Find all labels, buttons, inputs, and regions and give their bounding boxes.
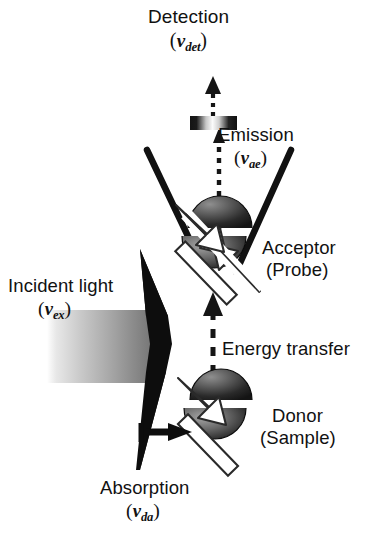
donor-label-line2: (Sample) — [260, 428, 336, 449]
incident-light-label-line2: (νex) — [38, 298, 113, 322]
absorption-label-line2: (νda) — [126, 500, 189, 524]
detection-ray — [205, 76, 221, 116]
donor-label-line1: Donor — [272, 406, 336, 427]
absorption-label: Absorption (νda) — [100, 478, 189, 523]
incident-light-label: Incident light (νex) — [8, 276, 113, 321]
emission-label-line2: (νae) — [234, 147, 294, 171]
acceptor-label: Acceptor (Probe) — [262, 238, 336, 280]
emission-label-line1: Emission — [218, 125, 294, 146]
detection-label: Detection (νdet) — [0, 6, 377, 54]
acceptor-label-line1: Acceptor — [262, 238, 336, 259]
emission-label: Emission (νae) — [218, 125, 294, 170]
donor-label: Donor (Sample) — [272, 406, 336, 448]
figure-canvas: Detection (νdet) Emission (νae) Incident… — [0, 0, 377, 536]
detection-label-line1: Detection — [0, 6, 377, 27]
incident-light-label-line1: Incident light — [8, 276, 113, 297]
energy-transfer-label-line1: Energy transfer — [222, 339, 350, 360]
absorption-label-line1: Absorption — [100, 478, 189, 499]
acceptor-label-line2: (Probe) — [266, 260, 336, 281]
detection-label-line2: (νdet) — [0, 29, 377, 54]
energy-transfer-label: Energy transfer — [222, 339, 350, 360]
